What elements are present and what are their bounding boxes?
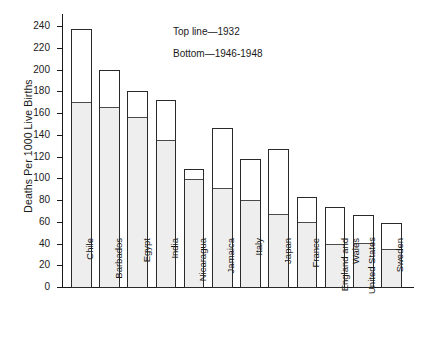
y-tick [57,178,63,179]
y-tick-label: 120 [24,152,50,162]
y-tick [57,287,63,288]
y-tick-label: 40 [24,239,50,249]
annotation-bottom-line: Bottom—1946-1948 [173,48,263,59]
y-tick [57,222,63,223]
y-tick-label: 160 [24,108,50,118]
bar-chart: Deaths Per 1000 Live Births 020406080100… [0,0,427,350]
y-tick [57,48,63,49]
y-tick-label: 80 [24,195,50,205]
x-axis-label: Jamaica [226,238,237,294]
y-tick-label: 200 [24,65,50,75]
y-tick [57,70,63,71]
y-tick-label: 220 [24,43,50,53]
y-tick-label: 0 [24,282,50,292]
y-tick-label: 180 [24,86,50,96]
y-tick [57,244,63,245]
x-axis-label: Barbados [114,238,125,294]
x-axis-label: India [170,238,181,294]
y-tick [57,91,63,92]
y-tick-label: 240 [24,21,50,31]
annotation-top-line: Top line—1932 [173,26,240,37]
y-tick [57,157,63,158]
y-tick [57,200,63,201]
x-axis-label: United States [367,238,378,294]
y-tick [57,26,63,27]
x-axis-label: Italy [254,238,265,294]
y-axis-line [62,14,63,288]
x-axis-label: France [311,238,322,294]
y-tick [57,113,63,114]
x-axis-label: Chile [85,238,96,294]
x-axis-label: Nicaragua [198,238,209,294]
x-axis-label: England and Wales [340,238,361,294]
x-axis-label: Japan [283,238,294,294]
x-axis-label: Egypt [142,238,153,294]
x-axis-label: Sweden [395,238,406,294]
y-tick-label: 60 [24,217,50,227]
y-tick-label: 20 [24,260,50,270]
y-tick [57,135,63,136]
y-tick-label: 140 [24,130,50,140]
y-tick-label: 100 [24,173,50,183]
y-tick [57,265,63,266]
y-axis-title: Deaths Per 1000 Live Births [22,56,34,236]
